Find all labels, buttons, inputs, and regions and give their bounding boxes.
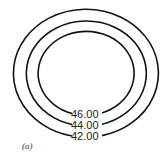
panel-label: (a) bbox=[22, 141, 33, 151]
contour-label-46: 46.00 bbox=[71, 108, 99, 120]
contour-46: 46.00 bbox=[38, 31, 134, 120]
contour-line-46 bbox=[38, 31, 134, 113]
contour-diagram: 42.00 44.00 46.00 (a) bbox=[0, 0, 166, 160]
contour-label-44: 44.00 bbox=[71, 119, 99, 131]
contour-label-42: 42.00 bbox=[71, 130, 99, 142]
